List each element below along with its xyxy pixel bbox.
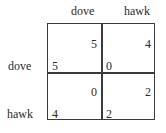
cell-dove-dove-col-payoff: 5 (91, 38, 97, 50)
row-header-hawk: hawk (7, 108, 33, 120)
matrix-horizontal-divider (47, 72, 155, 74)
cell-dove-dove-row-payoff: 5 (52, 60, 58, 72)
cell-hawk-dove-row-payoff: 4 (52, 108, 58, 120)
cell-dove-hawk-col-payoff: 4 (145, 38, 151, 50)
cell-hawk-hawk-col-payoff: 2 (145, 86, 151, 98)
cell-hawk-dove-col-payoff: 0 (91, 86, 97, 98)
cell-hawk-hawk-row-payoff: 2 (106, 108, 112, 120)
column-header-hawk: hawk (124, 5, 150, 17)
cell-dove-hawk-row-payoff: 0 (106, 60, 112, 72)
column-header-dove: dove (71, 5, 94, 17)
row-header-dove: dove (8, 60, 31, 72)
